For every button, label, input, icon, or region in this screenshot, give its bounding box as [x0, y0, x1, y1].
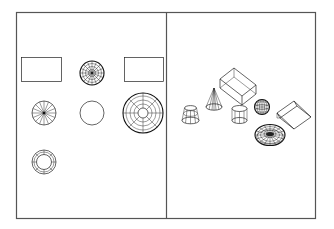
torus-iso-icon [255, 125, 285, 146]
box-iso-icon [220, 68, 256, 105]
isometric-viewport[interactable] [182, 68, 311, 146]
frustum-iso-icon [182, 106, 199, 124]
wedge-plan-icon [125, 58, 164, 82]
cylinder-plan-icon [80, 101, 104, 125]
cad-drawing [0, 0, 334, 229]
box-plan-icon [22, 58, 62, 82]
sphere-plan-icon [80, 61, 104, 85]
sphere-iso-icon [255, 100, 270, 115]
torus-plan-icon [32, 150, 56, 174]
wedge-iso-icon [277, 101, 311, 129]
cylinder-iso-icon [232, 106, 247, 124]
dome-plan-icon [123, 93, 163, 133]
cone-iso-icon [206, 88, 222, 110]
cone-plan-icon [32, 101, 56, 125]
top-viewport[interactable] [22, 58, 164, 175]
